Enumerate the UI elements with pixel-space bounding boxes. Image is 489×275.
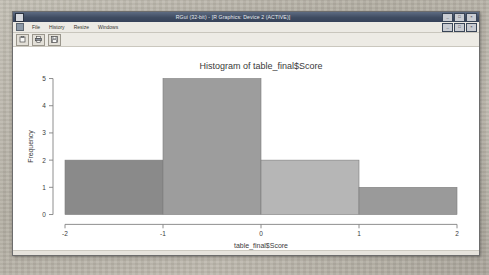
histogram-bar bbox=[261, 160, 359, 214]
save-as-button[interactable] bbox=[48, 34, 61, 46]
graphics-client-area: Histogram of table_final$Score012345-2-1… bbox=[13, 47, 479, 250]
y-axis-label: Frequency bbox=[27, 130, 35, 163]
x-axis-tick-label: 0 bbox=[259, 230, 263, 237]
menu-history[interactable]: History bbox=[48, 24, 66, 30]
x-axis-tick-label: 1 bbox=[357, 230, 361, 237]
y-axis-tick-label: 0 bbox=[42, 211, 46, 218]
x-axis-tick-label: 2 bbox=[455, 230, 459, 237]
histogram-bar bbox=[359, 187, 457, 214]
maximize-button[interactable]: □ bbox=[454, 13, 465, 22]
y-axis-tick-label: 2 bbox=[42, 157, 46, 164]
histogram-bar bbox=[163, 79, 261, 215]
window-titlebar[interactable]: RGui (32-bit) - [R Graphics: Device 2 (A… bbox=[13, 12, 479, 22]
window-controls: _ □ × bbox=[442, 13, 477, 22]
inner-restore-button[interactable]: □ bbox=[454, 23, 465, 32]
inner-minimize-button[interactable]: _ bbox=[442, 23, 453, 32]
y-axis-tick-label: 4 bbox=[42, 102, 46, 109]
y-axis-tick-label: 1 bbox=[42, 184, 46, 191]
close-button[interactable]: × bbox=[466, 13, 477, 22]
menu-windows[interactable]: Windows bbox=[97, 24, 119, 30]
menu-bar: File History Resize Windows _ □ × bbox=[13, 22, 479, 33]
y-axis-tick-label: 5 bbox=[42, 75, 46, 82]
inner-close-button[interactable]: × bbox=[466, 23, 477, 32]
menu-file[interactable]: File bbox=[31, 24, 41, 30]
copy-to-clipboard-button[interactable] bbox=[16, 34, 29, 46]
rgui-graphics-window: RGui (32-bit) - [R Graphics: Device 2 (A… bbox=[12, 11, 480, 256]
window-bottom-strip bbox=[13, 250, 479, 255]
menu-resize[interactable]: Resize bbox=[73, 24, 90, 30]
printer-icon bbox=[35, 36, 42, 43]
mdi-window-controls: _ □ × bbox=[442, 23, 479, 32]
clipboard-icon bbox=[19, 36, 26, 43]
document-icon bbox=[16, 23, 24, 31]
histogram-bar bbox=[65, 160, 163, 214]
x-axis-tick-label: -1 bbox=[160, 230, 166, 237]
r-app-icon bbox=[15, 13, 24, 22]
toolbar bbox=[13, 33, 479, 47]
chart-title: Histogram of table_final$Score bbox=[200, 61, 323, 71]
save-icon bbox=[51, 36, 58, 43]
histogram-svg: Histogram of table_final$Score012345-2-1… bbox=[13, 47, 479, 250]
x-axis-tick-label: -2 bbox=[62, 230, 68, 237]
plot-canvas: Histogram of table_final$Score012345-2-1… bbox=[13, 47, 479, 250]
minimize-button[interactable]: _ bbox=[442, 13, 453, 22]
print-button[interactable] bbox=[32, 34, 45, 46]
y-axis-tick-label: 3 bbox=[42, 129, 46, 136]
x-axis-label: table_final$Score bbox=[234, 242, 288, 250]
window-title: RGui (32-bit) - [R Graphics: Device 2 (A… bbox=[24, 14, 442, 20]
